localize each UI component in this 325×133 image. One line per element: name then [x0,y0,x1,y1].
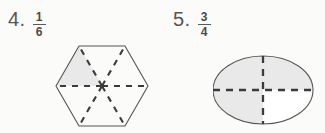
fraction: 3 4 [198,11,211,38]
fraction-numerator: 3 [199,11,210,23]
ellipse-shaded-left-half [213,50,263,133]
fraction-denominator: 4 [199,26,210,38]
fraction-denominator: 6 [34,26,45,38]
problem-item: 4. 1 6 [0,0,163,133]
hexagon-shaded-sector [56,46,102,86]
fraction-numerator: 1 [34,11,45,23]
ellipse-figure [213,50,325,133]
problem-heading: 4. 1 6 [8,8,46,38]
worksheet-page: 4. 1 6 [0,0,325,133]
problem-number: 5. [173,8,191,30]
hexagon-divider-lower-right [102,86,125,126]
problem-number: 4. [8,8,26,30]
hexagon-figure [52,38,152,133]
ellipse-shading-group [213,50,325,133]
hexagon-divider-upper-right [102,46,125,86]
problem-heading: 5. 3 4 [173,8,211,38]
problem-item: 5. 3 4 [163,0,325,133]
fraction: 1 6 [33,11,46,38]
ellipse-svg [213,50,325,133]
hexagon-divider-lower-left [79,86,102,126]
hexagon-svg [52,38,152,133]
ellipse-unshaded-lower-right-quadrant [263,90,325,133]
